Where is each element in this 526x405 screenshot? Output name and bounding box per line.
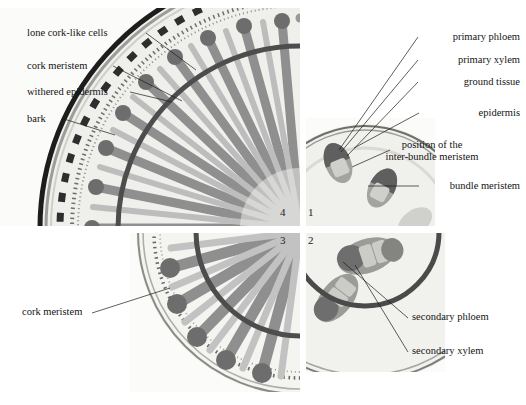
label-cork-meristem-panel4: cork meristem [27,60,87,72]
label-inter-bundle-meristem-line2: inter-bundle meristem [386,151,479,162]
label-bark: bark [27,113,46,125]
label-lone-cork-like-cells: lone cork-like cells [27,27,107,39]
label-cork-meristem-panel3: cork meristem [22,306,82,318]
panel-1-image [305,118,435,228]
label-secondary-phloem: secondary phloem [412,311,489,323]
label-ground-tissue: ground tissue [340,76,520,88]
label-inter-bundle-meristem: position of the inter-bundle meristem [344,139,520,164]
label-withered-epidermis: withered epidermis [27,86,108,98]
label-bundle-meristem: bundle meristem [340,180,520,192]
label-primary-xylem: primary xylem [340,54,520,66]
gutter-horizontal [0,226,446,233]
label-primary-phloem: primary phloem [340,31,520,43]
label-epidermis: epidermis [340,107,520,119]
label-secondary-xylem: secondary xylem [412,345,483,357]
figure-canvas: lone cork-like cells cork meristem withe… [0,0,526,405]
panel-number-2: 2 [308,234,314,246]
panel-3-image [130,232,300,392]
panel-number-1: 1 [308,206,314,218]
panel-number-4: 4 [280,206,286,218]
gutter-vertical [300,0,306,405]
panel-number-3: 3 [280,234,286,246]
label-inter-bundle-meristem-line1: position of the [402,139,463,150]
